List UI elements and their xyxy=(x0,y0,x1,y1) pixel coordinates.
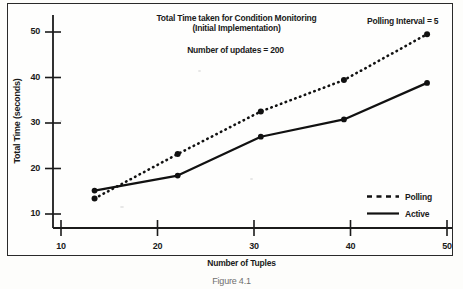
y-tick-label: 20 xyxy=(14,163,40,173)
data-point xyxy=(92,188,98,194)
x-tick-label: 20 xyxy=(143,241,173,251)
figure-root: Total Time taken for Condition Monitorin… xyxy=(0,0,463,289)
x-tick-label: 50 xyxy=(432,241,462,251)
legend-item-active: Active xyxy=(405,209,429,219)
x-axis-label: Number of Tuples xyxy=(0,258,463,268)
x-tick-label: 40 xyxy=(336,241,366,251)
chart-subtitle: Number of updates = 200 xyxy=(0,45,463,55)
legend-item-polling: Polling xyxy=(405,192,432,202)
x-tick-label: 30 xyxy=(239,241,269,251)
y-tick-label: 30 xyxy=(14,117,40,127)
series-markers-polling xyxy=(92,31,431,201)
series-line-polling xyxy=(95,34,428,198)
data-point xyxy=(341,77,347,83)
figure-caption: Figure 4.1 xyxy=(0,276,463,286)
data-point xyxy=(175,151,181,157)
data-point xyxy=(258,134,264,140)
data-point xyxy=(424,80,430,86)
data-point xyxy=(92,196,98,202)
y-tick-label: 50 xyxy=(14,26,40,36)
data-point xyxy=(258,108,264,114)
y-tick-label: 10 xyxy=(14,208,40,218)
data-point xyxy=(341,116,347,122)
annotation-polling-interval: Polling Interval = 5 xyxy=(367,16,438,26)
series-markers-active xyxy=(92,80,430,193)
x-tick-label: 10 xyxy=(46,241,76,251)
data-point xyxy=(175,173,181,179)
y-tick-label: 40 xyxy=(14,72,40,82)
